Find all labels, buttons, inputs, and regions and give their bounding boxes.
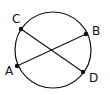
point-a-marker (15, 64, 19, 68)
point-c-marker (19, 27, 23, 31)
point-b-marker (84, 32, 88, 36)
point-d-label: D (89, 71, 98, 85)
point-d-marker (81, 70, 85, 74)
chord-cd (21, 29, 83, 72)
point-b-label: B (92, 24, 100, 38)
point-c-label: C (12, 12, 20, 26)
circle (15, 12, 91, 88)
point-a-label: A (5, 64, 14, 78)
circle-chords-diagram: C B A D (0, 0, 110, 95)
